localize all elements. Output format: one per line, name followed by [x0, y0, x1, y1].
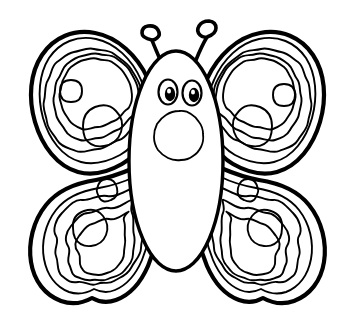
antenna-right-tip	[198, 21, 216, 37]
coloring-page: Butterfly Coloring Page Cartoon butterfl…	[0, 0, 351, 323]
eye-left-highlight	[167, 88, 171, 93]
butterfly-line-drawing	[0, 0, 351, 323]
eye-right-highlight	[191, 89, 195, 94]
body-group	[129, 51, 223, 271]
antenna-left-tip	[142, 26, 159, 40]
